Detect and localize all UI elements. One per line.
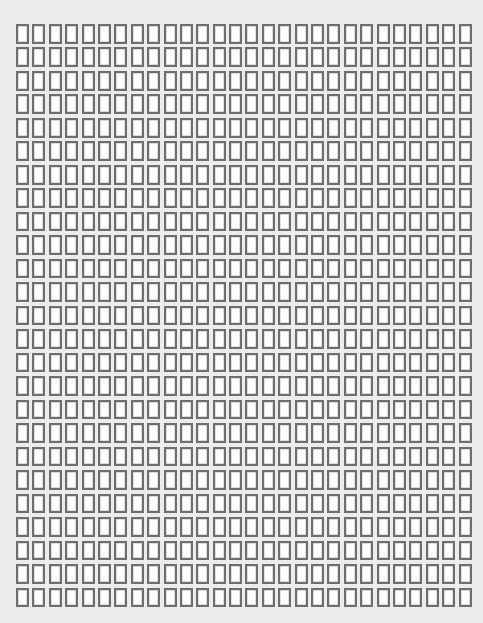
grid-cell (114, 329, 127, 349)
grid-cell (49, 376, 62, 396)
grid-cell (213, 423, 226, 443)
grid-cell (377, 423, 390, 443)
grid-cell (16, 235, 29, 255)
grid-cell (442, 564, 455, 584)
grid-cell (409, 188, 422, 208)
grid-cell (327, 470, 340, 490)
grid-cell (98, 470, 111, 490)
grid-cell (196, 517, 209, 537)
grid-cell (262, 259, 275, 279)
grid-cell (229, 517, 242, 537)
grid-cell (164, 541, 177, 561)
grid-cell (245, 71, 258, 91)
grid-cell (164, 188, 177, 208)
grid-cell (131, 47, 144, 67)
grid-cell (196, 306, 209, 326)
grid-cell (360, 118, 373, 138)
grid-cell (278, 71, 291, 91)
grid-cell (459, 564, 472, 584)
grid-cell (196, 71, 209, 91)
grid-cell (164, 423, 177, 443)
grid-cell (164, 47, 177, 67)
grid-cell (377, 47, 390, 67)
grid-cell (196, 235, 209, 255)
grid-cell (147, 400, 160, 420)
grid-cell (131, 541, 144, 561)
grid-cell (459, 165, 472, 185)
grid-cell (49, 118, 62, 138)
grid-cell (295, 447, 308, 467)
grid-cell (426, 494, 439, 514)
grid-cell (245, 541, 258, 561)
grid-cell (262, 71, 275, 91)
grid-cell (82, 353, 95, 373)
grid-cell (82, 517, 95, 537)
grid-cell (229, 329, 242, 349)
grid-cell (409, 517, 422, 537)
grid-cell (98, 306, 111, 326)
grid-cell (229, 494, 242, 514)
grid-cell (98, 24, 111, 44)
grid-cell (426, 165, 439, 185)
grid-cell (196, 376, 209, 396)
grid-cell (49, 494, 62, 514)
grid-cell (32, 423, 45, 443)
grid-cell (164, 71, 177, 91)
grid-cell (82, 141, 95, 161)
grid-cell (459, 212, 472, 232)
grid-cell (32, 447, 45, 467)
grid-cell (262, 588, 275, 608)
grid-cell (147, 24, 160, 44)
grid-cell (245, 282, 258, 302)
grid-cell (98, 165, 111, 185)
grid-cell (82, 235, 95, 255)
grid-cell (196, 188, 209, 208)
grid-cell (459, 141, 472, 161)
grid-cell (213, 329, 226, 349)
grid-cell (32, 306, 45, 326)
grid-cell (295, 470, 308, 490)
grid-cell (114, 235, 127, 255)
grid-cell (180, 306, 193, 326)
grid-cell (426, 282, 439, 302)
grid-cell (180, 24, 193, 44)
grid-cell (409, 212, 422, 232)
grid-cell (82, 94, 95, 114)
grid-cell (360, 470, 373, 490)
grid-cell (32, 494, 45, 514)
grid-cell (360, 235, 373, 255)
grid-cell (164, 470, 177, 490)
grid-cell (82, 447, 95, 467)
grid-cell (213, 24, 226, 44)
grid-cell (278, 447, 291, 467)
grid-cell (131, 517, 144, 537)
grid-cell (459, 94, 472, 114)
grid-cell (98, 71, 111, 91)
grid-cell (245, 118, 258, 138)
grid-cell (131, 329, 144, 349)
grid-cell (377, 259, 390, 279)
grid-cell (114, 541, 127, 561)
grid-cell (327, 564, 340, 584)
grid-cell (426, 376, 439, 396)
grid-cell (278, 329, 291, 349)
grid-cell (98, 235, 111, 255)
grid-cell (147, 141, 160, 161)
grid-cell (114, 118, 127, 138)
grid-cell (196, 494, 209, 514)
grid-cell (344, 141, 357, 161)
grid-cell (426, 517, 439, 537)
grid-cell (196, 282, 209, 302)
grid-cell (114, 282, 127, 302)
grid-cell (377, 212, 390, 232)
grid-cell (393, 588, 406, 608)
grid-cell (459, 188, 472, 208)
grid-cell (262, 423, 275, 443)
grid-cell (262, 517, 275, 537)
grid-cell (459, 235, 472, 255)
grid-cell (98, 282, 111, 302)
grid-cell (426, 588, 439, 608)
grid-cell (459, 447, 472, 467)
grid-cell (32, 329, 45, 349)
grid-cell (393, 306, 406, 326)
